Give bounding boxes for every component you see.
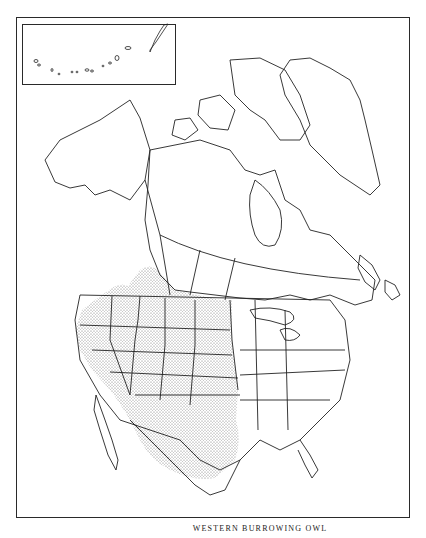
north-america-map: [0, 0, 426, 538]
aleutian-islands: [34, 24, 168, 75]
map-caption: WESTERN BURROWING OWL: [150, 524, 370, 533]
